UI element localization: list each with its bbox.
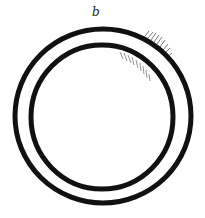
outer-ring (15, 29, 191, 203)
inner-ring (31, 45, 173, 189)
diagram-label: b (92, 6, 100, 18)
concentric-rings-diagram (0, 0, 205, 218)
